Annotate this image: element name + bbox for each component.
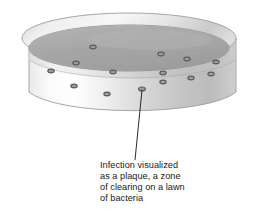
- plaque-ring: [160, 80, 166, 84]
- plaque-ring: [73, 61, 79, 65]
- plaque-ring: [104, 92, 110, 96]
- plaque-ring: [184, 57, 190, 61]
- plaque-ring: [213, 60, 219, 64]
- caption-line-1: Infection visualized: [100, 160, 220, 171]
- caption-line-3: of clearing on a lawn: [100, 182, 220, 193]
- plaque-ring: [158, 52, 164, 56]
- plaque-7: [110, 70, 116, 74]
- plaque-12: [160, 80, 166, 84]
- plaque-9: [208, 72, 214, 76]
- plaque-4: [73, 61, 79, 65]
- plaque-6: [48, 69, 54, 73]
- plaque-ring: [208, 72, 214, 76]
- plaque-13: [104, 92, 110, 96]
- caption-line-4: of bacteria: [100, 193, 220, 204]
- plaque-ring: [110, 70, 116, 74]
- plaque-ring: [90, 45, 96, 49]
- plaque-1: [90, 45, 96, 49]
- plaque-8: [160, 71, 166, 75]
- plaque-ring: [48, 69, 54, 73]
- caption-text-block: Infection visualized as a plaque, a zone…: [100, 160, 220, 204]
- plaque-ring: [71, 84, 77, 88]
- plaque-2: [158, 52, 164, 56]
- plaque-5: [213, 60, 219, 64]
- plaque-ring: [188, 76, 194, 80]
- caption-line-2: as a plaque, a zone: [100, 171, 220, 182]
- figure-root: Infection visualized as a plaque, a zone…: [0, 0, 258, 222]
- plaque-3: [184, 57, 190, 61]
- plaque-11: [71, 84, 77, 88]
- plaque-ring: [160, 71, 166, 75]
- bacterial-lawn-surface: [29, 25, 229, 71]
- plaque-10: [188, 76, 194, 80]
